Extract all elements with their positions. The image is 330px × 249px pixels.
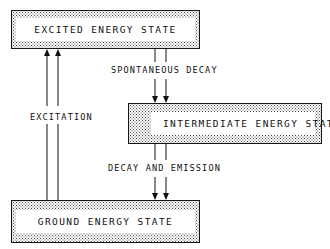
state-box-intermediate[interactable]: INTERMEDIATE ENERGY STATE bbox=[128, 103, 322, 144]
arrowhead-down-spontaneous-1 bbox=[152, 96, 158, 103]
arrowhead-down-emission-2 bbox=[163, 193, 169, 200]
energy-state-diagram: EXCITED ENERGY STATE INTERMEDIATE ENERGY… bbox=[0, 0, 330, 249]
flow-label-spontaneous-decay: SPONTANEOUS DECAY bbox=[107, 64, 222, 77]
arrowhead-down-emission-1 bbox=[152, 193, 158, 200]
state-box-excited[interactable]: EXCITED ENERGY STATE bbox=[11, 10, 200, 49]
state-label-ground: GROUND ENERGY STATE bbox=[16, 210, 195, 233]
arrowhead-up-excitation-2 bbox=[55, 49, 61, 56]
arrowhead-up-excitation-1 bbox=[44, 49, 50, 56]
flow-label-excitation: EXCITATION bbox=[26, 111, 97, 124]
state-box-ground[interactable]: GROUND ENERGY STATE bbox=[11, 200, 200, 243]
flow-line-excitation bbox=[44, 49, 61, 200]
arrowhead-down-spontaneous-2 bbox=[163, 96, 169, 103]
flow-label-decay-and-emission: DECAY AND EMISSION bbox=[104, 162, 225, 175]
state-label-intermediate: INTERMEDIATE ENERGY STATE bbox=[151, 112, 315, 135]
state-label-excited: EXCITED ENERGY STATE bbox=[16, 18, 195, 41]
